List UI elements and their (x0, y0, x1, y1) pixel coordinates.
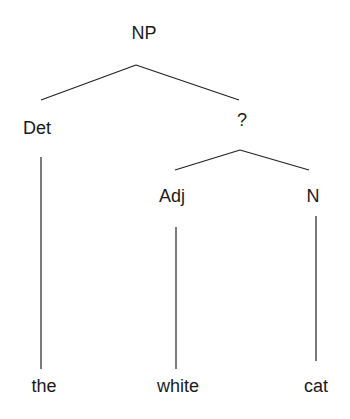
leaf-white: white (157, 377, 199, 395)
node-unknown: ? (237, 111, 247, 129)
edge-unknown-adj (175, 150, 240, 170)
tree-edges (0, 0, 350, 419)
leaf-the: the (31, 377, 56, 395)
node-det: Det (23, 119, 51, 137)
leaf-cat: cat (304, 377, 328, 395)
edge-np-det (41, 65, 136, 100)
node-adj: Adj (159, 187, 185, 205)
edge-unknown-n (240, 150, 309, 170)
edge-np-unknown (136, 65, 239, 100)
node-np: NP (131, 24, 156, 42)
node-n: N (307, 187, 320, 205)
